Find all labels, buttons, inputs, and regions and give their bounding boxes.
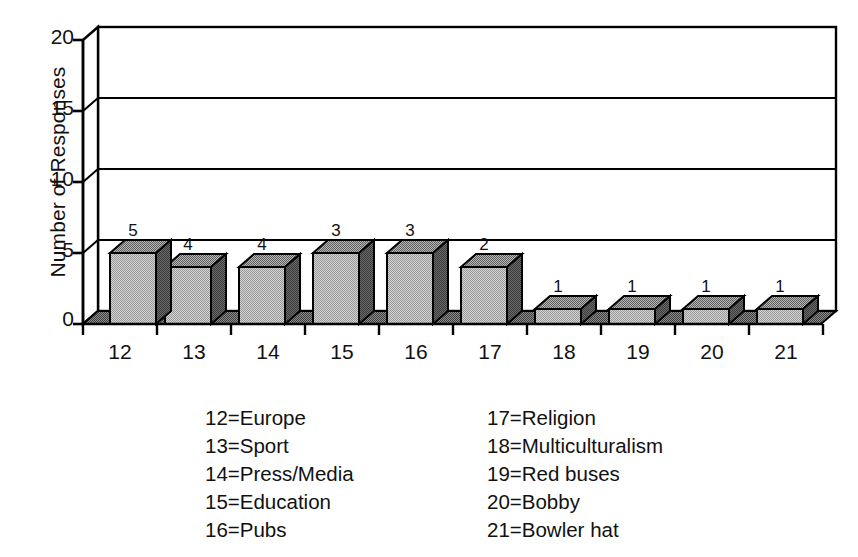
x-tick-label-19: 19 [608,341,668,362]
y-axis-spine [73,40,83,324]
y-tick-label-15: 15 [28,97,74,118]
x-tick-label-13: 13 [164,341,224,362]
bar-value-16: 3 [390,222,430,239]
x-tick-label-12: 12 [90,341,150,362]
x-tick-label-16: 16 [386,341,446,362]
bar-value-19: 1 [612,278,652,295]
bar-18[interactable] [535,296,596,324]
legend-item-17: 17=Religion [487,404,827,432]
bar-19[interactable] [609,296,670,324]
legend-item-16: 16=Pubs [205,516,487,544]
x-tick-label-20: 20 [682,341,742,362]
x-tick-label-14: 14 [238,341,298,362]
bar-17[interactable] [461,254,522,324]
bar-14[interactable] [239,254,300,324]
legend-item-15: 15=Education [205,488,487,516]
bar-value-12: 5 [113,222,153,239]
legend-item-19: 19=Red buses [487,460,827,488]
bar-value-13: 4 [168,236,208,253]
plot-left-depth-wall [83,27,98,324]
bar-value-14: 4 [242,236,282,253]
legend-column-left: 12=Europe 13=Sport 14=Press/Media 15=Edu… [205,404,487,544]
bar-21[interactable] [757,296,818,324]
bar-13[interactable] [165,254,226,324]
bar-value-18: 1 [538,278,578,295]
legend-item-18: 18=Multiculturalism [487,432,827,460]
legend-item-13: 13=Sport [205,432,487,460]
category-legend: 12=Europe 13=Sport 14=Press/Media 15=Edu… [205,404,845,544]
y-tick-label-5: 5 [28,239,74,260]
bar-value-20: 1 [686,278,726,295]
bar-16[interactable] [387,240,448,324]
x-tick-label-21: 21 [756,341,816,362]
bar-12[interactable] [110,240,171,324]
bar-value-17: 2 [464,236,504,253]
y-tick-label-0: 0 [28,308,74,329]
x-tick-label-17: 17 [460,341,520,362]
legend-column-right: 17=Religion 18=Multiculturalism 19=Red b… [487,404,827,544]
legend-item-14: 14=Press/Media [205,460,487,488]
bar-value-21: 1 [760,278,800,295]
legend-item-20: 20=Bobby [487,488,827,516]
legend-item-12: 12=Europe [205,404,487,432]
y-tick-label-20: 20 [28,26,74,47]
x-tick-label-15: 15 [312,341,372,362]
y-tick-label-10: 10 [28,168,74,189]
x-tick-label-18: 18 [534,341,594,362]
chart-svg [0,0,858,360]
bar-20[interactable] [683,296,744,324]
bar-15[interactable] [313,240,374,324]
figure-bar-chart-responses: Number of Responses 0 5 10 15 20 [0,0,858,557]
bar-value-15: 3 [316,222,356,239]
chart-plot-area: Number of Responses 0 5 10 15 20 [0,0,858,360]
page-scan-edge-artifact [150,546,790,557]
legend-item-21: 21=Bowler hat [487,516,827,544]
x-axis-spine [83,324,823,335]
